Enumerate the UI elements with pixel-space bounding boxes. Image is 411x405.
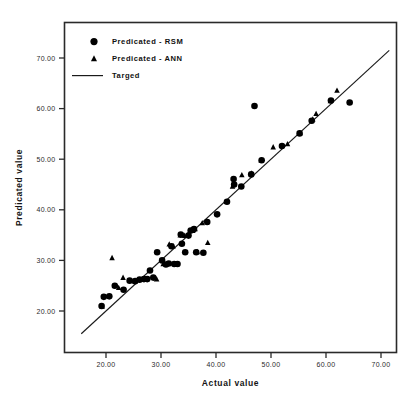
- x-tick-label: 40.00: [206, 361, 225, 368]
- legend-label: Predicated - RSM: [112, 37, 183, 46]
- figure-background: [0, 0, 411, 405]
- data-point-rsm: [251, 103, 258, 110]
- data-point-rsm: [238, 183, 245, 190]
- data-point-rsm: [214, 211, 221, 218]
- legend-label: Targed: [112, 71, 140, 80]
- y-tick-label: 50.00: [36, 156, 55, 163]
- data-point-rsm: [279, 143, 286, 150]
- data-point-rsm: [179, 240, 186, 247]
- y-tick-label: 40.00: [36, 206, 55, 213]
- data-point-rsm: [200, 250, 207, 257]
- data-point-rsm: [230, 176, 237, 183]
- data-point-rsm: [120, 286, 127, 293]
- data-point-rsm: [147, 267, 154, 274]
- x-tick-label: 30.00: [151, 361, 170, 368]
- x-tick-label: 20.00: [96, 361, 115, 368]
- x-tick-label: 60.00: [316, 361, 335, 368]
- x-tick-label: 50.00: [261, 361, 280, 368]
- y-tick-label: 20.00: [36, 308, 55, 315]
- x-tick-label: 70.00: [371, 361, 390, 368]
- data-point-rsm: [106, 293, 113, 300]
- x-axis-title: Actual value: [202, 378, 259, 388]
- data-point-rsm: [346, 99, 353, 106]
- scatter-plot-figure: 20.0030.0040.0050.0060.0070.0020.0030.00…: [0, 0, 411, 405]
- y-tick-label: 70.00: [36, 55, 55, 62]
- y-tick-label: 30.00: [36, 257, 55, 264]
- y-tick-label: 60.00: [36, 105, 55, 112]
- legend-label: Predicated - ANN: [112, 54, 183, 63]
- y-axis-title: Predicated value: [14, 149, 24, 226]
- data-point-rsm: [204, 219, 211, 226]
- data-point-rsm: [182, 249, 189, 256]
- legend-circle-icon: [90, 38, 97, 45]
- data-point-rsm: [174, 261, 181, 268]
- data-point-rsm: [154, 249, 161, 256]
